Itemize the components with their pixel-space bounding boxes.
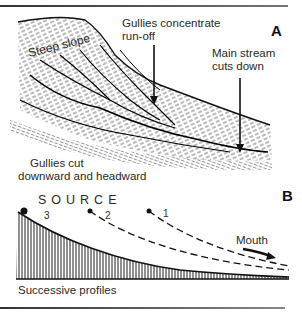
gullies-cut-label-line2: downward and headward — [18, 170, 147, 183]
main-stream-label-line1: Main stream — [212, 47, 275, 60]
profile-3-label: 3 — [44, 209, 50, 222]
mouth-label: Mouth — [236, 234, 268, 247]
source-label: SOURCE — [38, 194, 121, 207]
gullies-concentrate-label-line1: Gullies concentrate — [122, 17, 220, 30]
gullies-concentrate-label-line2: run-off — [122, 30, 155, 43]
profile-1-label: 1 — [163, 207, 169, 220]
successive-profiles-caption: Successive profiles — [18, 284, 116, 297]
panel-a-letter: A — [271, 22, 282, 39]
main-stream-label-line2: cuts down — [212, 60, 264, 73]
gullies-cut-label-line1: Gullies cut — [30, 157, 84, 170]
bottom-rule — [0, 307, 285, 309]
profile-2-label: 2 — [105, 209, 111, 222]
panel-b-letter: B — [282, 187, 293, 204]
